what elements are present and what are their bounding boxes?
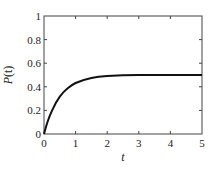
x-axis-label: t [121, 150, 125, 164]
x-tick-label: 1 [73, 137, 79, 149]
y-axis-label-arg: (t) [1, 66, 15, 77]
y-tick-label: 0 [36, 128, 42, 140]
x-tick-label: 0 [41, 137, 47, 149]
y-tick-label: 0.4 [27, 81, 41, 93]
series-line-p-of-t [44, 75, 202, 134]
x-tick-label: 4 [168, 137, 174, 149]
y-axis-label: P(t) [1, 66, 15, 86]
y-tick-label: 0.8 [27, 34, 41, 46]
y-tick-label: 1 [36, 10, 42, 22]
y-tick-labels: 0 0.2 0.4 0.6 0.8 1 [27, 10, 41, 140]
y-tick-label: 0.6 [27, 57, 41, 69]
x-tick-label: 2 [104, 137, 110, 149]
x-tick-labels: 0 1 2 3 4 5 [41, 137, 205, 149]
y-tick-label: 0.2 [27, 104, 41, 116]
x-tick-label: 5 [199, 137, 205, 149]
svg-text:P(t): P(t) [1, 66, 15, 86]
x-tick-label: 3 [136, 137, 142, 149]
chart: 0 1 2 3 4 5 0 0.2 0.4 0.6 0.8 1 t P(t) [0, 0, 212, 169]
